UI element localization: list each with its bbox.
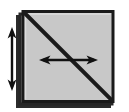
paper-fold-figure: Paper folding diagram: square sheet with… [0,0,129,112]
figure-canvas: Paper folding diagram: square sheet with… [0,0,129,112]
